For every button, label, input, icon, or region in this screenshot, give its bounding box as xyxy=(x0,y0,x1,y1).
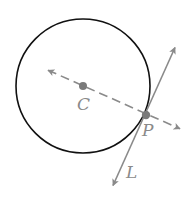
label-P: P xyxy=(141,120,154,140)
label-L: L xyxy=(125,162,137,182)
label-C: C xyxy=(77,94,90,114)
point-C xyxy=(79,82,87,90)
point-P xyxy=(142,111,150,119)
tangent-circle-diagram: C P L xyxy=(0,0,194,201)
